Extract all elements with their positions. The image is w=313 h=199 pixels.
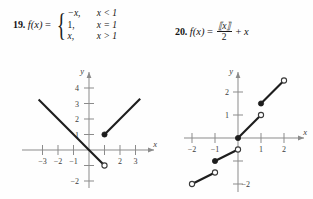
y-tick-label: 2 <box>225 88 229 97</box>
data-point-filled <box>258 101 263 106</box>
segment-step-1 <box>192 173 215 185</box>
problem-20-function-name: f(x) <box>190 26 205 37</box>
fraction-numerator: ⟦x⟧ <box>217 21 232 31</box>
y-tick-label: 1 <box>225 111 229 120</box>
segment-step-4 <box>261 81 284 104</box>
piece-value: −x, <box>67 8 87 20</box>
piecewise-row: −x, x < 1 <box>67 8 117 18</box>
data-point-open <box>212 170 217 175</box>
data-point-open <box>189 181 194 186</box>
problem-19-equals: = <box>45 19 51 30</box>
data-point-open <box>235 147 240 152</box>
graph-19: −3 −2 −1 2 3 1 2 3 4 −2 x y <box>16 58 162 196</box>
problem-19-function-name: f(x) <box>28 19 43 30</box>
problem-20-number: 20. <box>175 26 187 37</box>
plus-sign: + <box>236 26 242 37</box>
data-point-filled <box>235 135 240 140</box>
data-point-filled <box>212 158 217 163</box>
piecewise-row: x, x > 1 <box>67 31 117 41</box>
x-tick-label: −1 <box>211 145 220 154</box>
graph-19-svg: −3 −2 −1 2 3 1 2 3 4 −2 x y <box>16 58 162 196</box>
problem-19: 19. f(x) = { −x, x < 1 1, x = 1 x, x > 1 <box>13 8 117 43</box>
y-axis-label: y <box>79 66 84 76</box>
x-axis-label: x <box>152 139 157 149</box>
left-brace-icon: { <box>56 10 65 41</box>
textbook-page: 19. f(x) = { −x, x < 1 1, x = 1 x, x > 1 <box>0 0 313 199</box>
x-tick-label: −2 <box>54 157 63 166</box>
y-tick-label: −2 <box>70 177 79 186</box>
problem-20-equals: = <box>207 26 213 37</box>
x-tick-label: −1 <box>69 157 78 166</box>
piecewise-rows: −x, x < 1 1, x = 1 x, x > 1 <box>67 8 117 43</box>
graph-20-svg: −2 −1 1 2 1 2 −2 x y <box>178 58 310 196</box>
piecewise-group: { −x, x < 1 1, x = 1 x, x > 1 <box>54 8 117 43</box>
trailing-term: x <box>244 26 249 37</box>
fraction: ⟦x⟧ 2 <box>217 21 232 43</box>
graph-20: −2 −1 1 2 1 2 −2 x y <box>178 58 310 196</box>
y-tick-label: −2 <box>241 180 250 189</box>
segment-positive-x <box>105 99 141 135</box>
y-tick-label: 2 <box>75 115 79 124</box>
data-point-open <box>281 78 286 83</box>
piecewise-row: 1, x = 1 <box>67 20 117 30</box>
y-axis-arrow-icon <box>87 72 92 78</box>
x-tick-label: −3 <box>38 157 47 166</box>
piece-value: x, <box>67 31 87 43</box>
data-point-open <box>258 112 263 117</box>
fraction-denominator: 2 <box>222 32 227 43</box>
piece-condition: x < 1 <box>90 8 117 20</box>
segment-step-3 <box>238 115 261 138</box>
x-tick-label: 1 <box>259 145 263 154</box>
y-axis-arrow-icon <box>236 72 241 78</box>
x-tick-label: 2 <box>118 157 122 166</box>
problem-19-number: 19. <box>13 19 25 30</box>
segment-negative-x <box>39 100 105 166</box>
x-tick-label: 3 <box>134 157 138 166</box>
x-tick-label: −2 <box>188 145 197 154</box>
x-tick-label: 2 <box>282 145 286 154</box>
piece-condition: x > 1 <box>90 31 117 43</box>
data-point-filled <box>102 132 107 137</box>
piece-value: 1, <box>67 20 87 32</box>
x-axis-label: x <box>302 127 307 137</box>
problem-20: 20. f(x) = ⟦x⟧ 2 + x <box>175 22 249 44</box>
y-axis-label: y <box>228 66 233 76</box>
y-tick-label: 4 <box>75 84 79 93</box>
piece-condition: x = 1 <box>90 20 117 32</box>
data-point-open <box>102 163 107 168</box>
y-tick-label: 3 <box>75 100 79 109</box>
